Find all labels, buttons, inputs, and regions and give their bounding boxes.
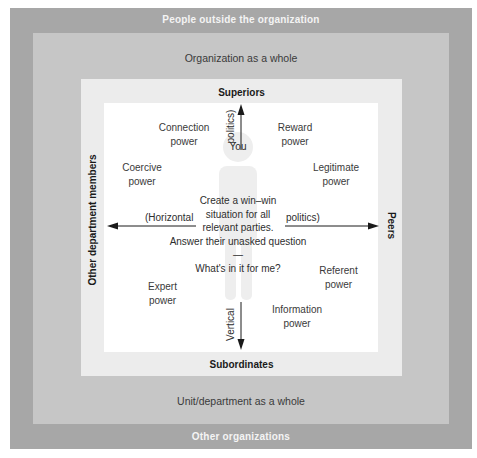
subordinates-label: Subordinates: [81, 359, 402, 370]
reward-power-label: Rewardpower: [270, 121, 320, 149]
down-arrow-label: Vertical: [225, 305, 236, 345]
information-power-label: Informationpower: [262, 303, 332, 331]
people-outside-label: People outside the organization: [10, 14, 472, 25]
connection-power-label: Connectionpower: [148, 121, 220, 149]
unit-label: Unit/department as a whole: [33, 395, 449, 407]
center-advice-text: Create a win–win situation for all relev…: [168, 194, 308, 275]
other-organizations-label: Other organizations: [10, 431, 472, 442]
coercive-power-label: Coercivepower: [112, 161, 172, 189]
arrow-down-icon: [238, 302, 245, 350]
referent-power-label: Referentpower: [311, 264, 366, 292]
expert-power-label: Expertpower: [135, 280, 190, 308]
you-label: You: [218, 141, 258, 152]
organization-label: Organization as a whole: [33, 52, 449, 64]
legitimate-power-label: Legitimatepower: [306, 161, 366, 189]
other-department-members-label: Other department members: [87, 166, 98, 286]
peers-label: Peers: [386, 206, 397, 246]
superiors-label: Superiors: [81, 87, 402, 98]
